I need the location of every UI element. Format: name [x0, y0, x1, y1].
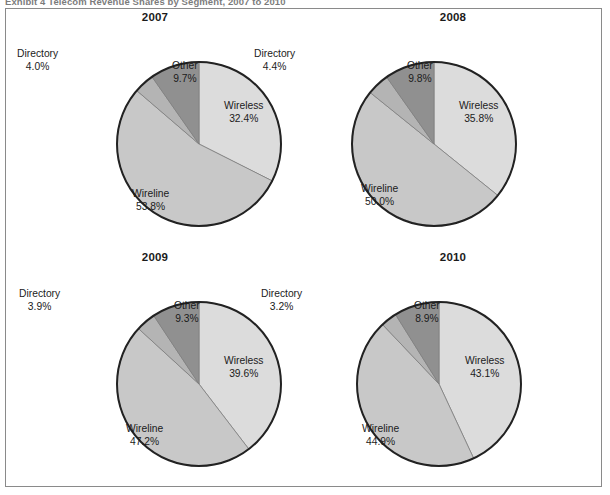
- pie-chart-2008: 2008 Wireless 35.8% Wireline 50.0% Direc…: [304, 11, 602, 251]
- chart-frame: 2007 Wireless 32.4% Wireline 53.8% Direc…: [5, 8, 602, 487]
- label-other-2007: Other 9.7%: [172, 60, 198, 85]
- label-wireless-2010: Wireless 43.1%: [465, 355, 504, 380]
- pie-svg-2010: [304, 251, 602, 488]
- label-other-2008: Other 9.8%: [407, 60, 433, 85]
- pie-svg-2008: [304, 11, 602, 251]
- pie-chart-2009: 2009 Wireless 39.6% Wireline 47.2% Direc…: [6, 251, 304, 488]
- label-wireline-2010: Wireline 44.9%: [362, 423, 399, 448]
- label-directory-2007: Directory 4.0%: [17, 48, 58, 73]
- pie-chart-2010: 2010 Wireless 43.1% Wireline 44.9% Direc…: [304, 251, 602, 488]
- label-wireless-2008: Wireless 35.8%: [459, 100, 498, 125]
- label-wireline-2009: Wireline 47.2%: [126, 423, 163, 448]
- label-directory-2008: Directory 4.4%: [254, 48, 295, 73]
- label-other-2010: Other 8.9%: [414, 300, 440, 325]
- label-wireless-2007: Wireless 32.4%: [224, 100, 263, 125]
- label-directory-2010: Directory 3.2%: [261, 288, 302, 313]
- label-wireless-2009: Wireless 39.6%: [224, 355, 263, 380]
- label-wireline-2008: Wireline 50.0%: [361, 183, 398, 208]
- label-directory-2009: Directory 3.9%: [19, 288, 60, 313]
- label-wireline-2007: Wireline 53.8%: [132, 188, 169, 213]
- pie-svg-2007: [6, 11, 304, 251]
- pie-chart-2007: 2007 Wireless 32.4% Wireline 53.8% Direc…: [6, 11, 304, 251]
- exhibit-title: Exhibit 4 Telecom Revenue Shares by Segm…: [5, 0, 286, 7]
- label-other-2009: Other 9.3%: [174, 300, 200, 325]
